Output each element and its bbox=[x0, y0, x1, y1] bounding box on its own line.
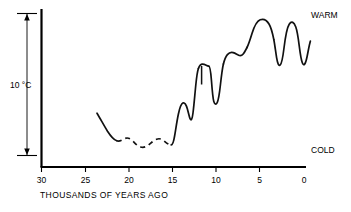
curve-neoglacial-oscillations bbox=[274, 22, 311, 65]
x-tick-label-15: 15 bbox=[168, 175, 178, 185]
temperature-curve-figure: 30 25 20 15 10 5 0 THOUSANDS OF YEARS AG… bbox=[0, 0, 351, 212]
curve-deglacial-warming bbox=[171, 69, 198, 145]
chart-canvas: 30 25 20 15 10 5 0 THOUSANDS OF YEARS AG… bbox=[0, 0, 351, 212]
x-tick-label-20: 20 bbox=[124, 175, 134, 185]
x-tick-label-30: 30 bbox=[37, 175, 47, 185]
curve-early-holocene-rise bbox=[223, 48, 247, 65]
cold-label: COLD bbox=[311, 145, 335, 155]
x-tick-labels: 30 25 20 15 10 5 0 bbox=[37, 175, 307, 185]
x-tick-label-5: 5 bbox=[257, 175, 262, 185]
x-tick-label-0: 0 bbox=[302, 175, 307, 185]
curve-glacial-maximum-trough bbox=[117, 138, 171, 147]
x-axis-title: THOUSANDS OF YEARS AGO bbox=[40, 190, 168, 200]
warm-label: WARM bbox=[311, 10, 338, 20]
curve-bolling-allerod-plateau bbox=[198, 64, 208, 68]
curve-holocene-thermal-maximum bbox=[247, 19, 274, 47]
x-tick-label-25: 25 bbox=[81, 175, 91, 185]
curve-late-glacial-decline bbox=[97, 113, 117, 141]
x-tick-label-10: 10 bbox=[211, 175, 221, 185]
curve-younger-dryas-reversal bbox=[209, 64, 224, 104]
scale-bar-label: 10 °C bbox=[10, 80, 31, 90]
